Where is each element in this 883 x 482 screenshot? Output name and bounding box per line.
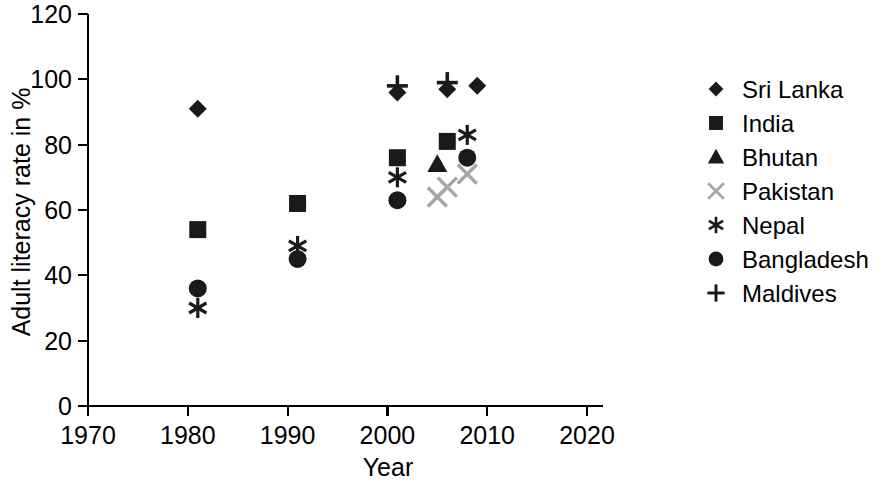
- y-tick-label: 100: [30, 65, 72, 93]
- legend-marker-diamond-icon: [709, 82, 724, 97]
- data-point-markers: [189, 72, 486, 318]
- y-axis-title: Adult literacy rate in %: [7, 88, 35, 337]
- legend-item-pakistan[interactable]: Pakistan: [708, 178, 834, 205]
- data-point-india-1981: [189, 221, 206, 238]
- y-tick-label: 40: [44, 261, 72, 289]
- legend-label: Pakistan: [742, 178, 834, 205]
- legend-item-nepal[interactable]: Nepal: [709, 212, 805, 239]
- legend-label: Bangladesh: [742, 246, 869, 273]
- series-nepal: [189, 125, 476, 318]
- x-tick-label: 2010: [459, 421, 515, 449]
- y-tick-label: 80: [44, 131, 72, 159]
- chart-legend: Sri LankaIndiaBhutanPakistanNepalBanglad…: [707, 76, 868, 307]
- x-tick-label: 1990: [260, 421, 316, 449]
- y-tick-label: 0: [58, 392, 72, 420]
- legend-item-bhutan[interactable]: Bhutan: [708, 144, 818, 171]
- data-point-bhutan-2005: [427, 154, 447, 172]
- data-point-india-1991: [289, 195, 306, 212]
- x-tick-label: 1980: [160, 421, 216, 449]
- legend-label: Nepal: [742, 212, 805, 239]
- data-point-india-2006: [439, 133, 456, 150]
- data-point-bangladesh-1981: [189, 279, 207, 297]
- data-point-bangladesh-2001: [388, 191, 406, 209]
- data-point-pakistan-2008: [458, 165, 477, 184]
- series-india: [189, 133, 456, 238]
- legend-label: Maldives: [742, 280, 837, 307]
- data-point-bangladesh-2008: [458, 149, 476, 167]
- data-point-nepal-2001: [389, 167, 406, 187]
- legend-item-maldives[interactable]: Maldives: [707, 280, 836, 307]
- x-tick-label: 1970: [60, 421, 116, 449]
- x-tick-label: 2000: [360, 421, 416, 449]
- legend-label: Bhutan: [742, 144, 818, 171]
- data-point-india-2001: [389, 149, 406, 166]
- data-point-nepal-1981: [189, 298, 206, 318]
- series-bhutan: [427, 154, 447, 172]
- scatter-chart-figure: 020406080100120 197019801990200020102020…: [0, 0, 883, 482]
- legend-item-sri-lanka[interactable]: Sri Lanka: [709, 76, 844, 103]
- data-point-bangladesh-1991: [289, 250, 307, 268]
- y-tick-label: 120: [30, 0, 72, 28]
- y-tick-label: 20: [44, 327, 72, 355]
- y-tick-label: 60: [44, 196, 72, 224]
- data-point-pakistan-2006: [438, 178, 457, 197]
- x-axis-title: Year: [363, 453, 414, 481]
- legend-item-india[interactable]: India: [709, 110, 795, 137]
- chart-axes: [78, 14, 603, 416]
- x-axis-tick-labels: 197019801990200020102020: [60, 421, 615, 449]
- data-point-sri-lanka-1981: [189, 100, 207, 118]
- legend-marker-circle-icon: [709, 252, 724, 267]
- chart-canvas: 020406080100120 197019801990200020102020…: [0, 0, 883, 482]
- legend-marker-triangle-icon: [708, 149, 724, 164]
- legend-label: India: [742, 110, 795, 137]
- data-point-nepal-2008: [459, 125, 476, 145]
- x-tick-label: 2020: [559, 421, 615, 449]
- legend-marker-plus-icon: [707, 284, 724, 301]
- legend-marker-cross-x-icon: [708, 183, 724, 199]
- legend-label: Sri Lanka: [742, 76, 844, 103]
- legend-item-bangladesh[interactable]: Bangladesh: [709, 246, 869, 273]
- y-axis-tick-labels: 020406080100120: [30, 0, 72, 420]
- series-maldives: [387, 72, 458, 96]
- legend-marker-square-icon: [709, 116, 723, 130]
- legend-marker-asterisk-icon: [709, 217, 723, 233]
- data-point-sri-lanka-2009: [468, 77, 486, 95]
